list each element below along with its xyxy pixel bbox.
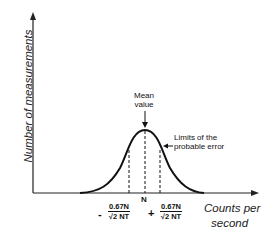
mean-label-line2: value — [134, 100, 153, 109]
x-axis-arrow-icon — [251, 190, 259, 196]
lower-limit-fraction: 0.67N √2 NT — [108, 202, 130, 221]
x-label-line1: Counts per — [204, 201, 260, 216]
limits-label-line2: probable error — [174, 142, 224, 151]
n-tick-label: N — [141, 195, 147, 204]
y-axis-label: Number of measurements — [22, 16, 34, 176]
plus-sign: + — [148, 207, 154, 219]
probable-error-label: Limits of the probable error — [174, 133, 224, 151]
upper-fraction-numerator: 0.67N — [160, 202, 182, 212]
upper-limit-fraction: 0.67N √2 NT — [160, 202, 182, 221]
mean-label-line1: Mean — [134, 91, 154, 100]
limits-label-line1: Limits of the — [174, 133, 217, 142]
lower-fraction-numerator: 0.67N — [108, 202, 130, 212]
x-label-line2: second — [204, 216, 260, 231]
limits-arrow-head-icon — [163, 144, 168, 149]
upper-fraction-denominator: √2 NT — [160, 212, 182, 221]
minus-sign: - — [98, 208, 102, 220]
lower-fraction-denominator: √2 NT — [108, 212, 130, 221]
mean-arrow-head-icon — [142, 122, 148, 128]
x-axis-label: Counts per second — [204, 201, 260, 231]
mean-value-label: Mean value — [124, 91, 164, 109]
